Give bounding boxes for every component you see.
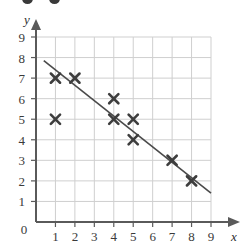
x-axis-tick-label: 7 (169, 229, 176, 244)
origin-tick-label: 0 (21, 222, 28, 237)
y-axis-label: y (22, 12, 30, 27)
chart-figure: 123456789 123456789 x y 0 (0, 0, 245, 249)
crop-artifact-glyph (49, 0, 60, 4)
y-axis-tick-label: 7 (19, 71, 26, 86)
crop-artifact-glyph (22, 0, 33, 4)
y-axis-tick-label: 2 (19, 174, 26, 189)
x-axis-tick-label: 1 (52, 229, 59, 244)
x-axis-label: x (230, 229, 237, 244)
x-axis-tick-label: 8 (188, 229, 195, 244)
data-markers-group (51, 74, 196, 186)
y-axis-tick-label: 1 (19, 194, 26, 209)
x-axis-tick-label: 4 (111, 229, 118, 244)
cropped-text-artifact (8, 0, 68, 5)
y-axis-tick-label: 3 (19, 153, 26, 168)
y-axis-tick-label: 6 (19, 92, 26, 107)
x-axis-tick-label: 5 (130, 229, 137, 244)
y-axis-arrowhead (31, 19, 41, 30)
x-axis-tick-label: 3 (91, 229, 98, 244)
line-of-best-fit (44, 61, 211, 194)
y-axis-tick-label: 9 (19, 30, 26, 45)
trend-line-group (44, 61, 211, 194)
x-axis-tick-labels: 123456789 (52, 229, 214, 244)
y-axis-tick-labels: 123456789 (19, 30, 26, 209)
axis-lines-group (36, 30, 228, 222)
x-axis-tick-label: 9 (208, 229, 215, 244)
y-axis-tick-label: 4 (19, 133, 26, 148)
x-axis-arrowhead (228, 217, 240, 227)
y-axis-tick-label: 8 (19, 51, 26, 66)
y-axis-tick-label: 5 (19, 112, 26, 127)
x-axis-tick-label: 6 (149, 229, 156, 244)
tick-marks-group (31, 37, 211, 227)
gridlines-group (36, 37, 211, 222)
scatter-plot-svg: 123456789 123456789 x y 0 (0, 0, 245, 249)
x-axis-tick-label: 2 (72, 229, 79, 244)
